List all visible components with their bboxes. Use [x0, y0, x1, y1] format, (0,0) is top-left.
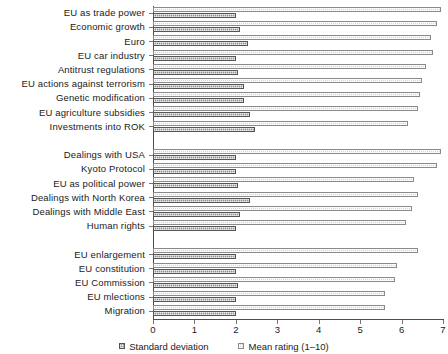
bar-row [153, 276, 443, 290]
bar-mean-rating [153, 121, 408, 126]
bar-standard-deviation [153, 283, 238, 288]
x-axis-tick-labels: 01234567 [153, 324, 444, 336]
x-axis-tick-label: 7 [440, 324, 445, 335]
bar-standard-deviation [153, 56, 236, 61]
category-label: Human rights [87, 221, 145, 231]
bar-mean-rating [153, 220, 406, 225]
x-axis-tick-label: 4 [316, 324, 321, 335]
bar-row [153, 91, 443, 105]
category-label: EU as trade power [64, 8, 145, 18]
category-label: Antitrust regulations [58, 65, 145, 75]
bar-row [153, 120, 443, 134]
bar-row [153, 49, 443, 63]
bar-standard-deviation [153, 198, 250, 203]
bar-row [153, 162, 443, 176]
category-label: Dealings with North Korea [31, 193, 145, 203]
bar-mean-rating [153, 291, 385, 296]
bar-standard-deviation [153, 41, 248, 46]
x-axis-tick-label: 1 [192, 324, 197, 335]
legend-label-standard-deviation: Standard deviation [129, 341, 208, 352]
category-label: EU car industry [78, 51, 145, 61]
bar-mean-rating [153, 64, 426, 69]
bar-mean-rating [153, 92, 420, 97]
bar-mean-rating [153, 78, 422, 83]
bar-standard-deviation [153, 13, 236, 18]
bar-mean-rating [153, 206, 412, 211]
legend-swatch-standard-deviation [119, 343, 125, 349]
bar-mean-rating [153, 248, 418, 253]
x-axis-tick-label: 0 [150, 324, 155, 335]
bar-row [153, 77, 443, 91]
bar-mean-rating [153, 106, 418, 111]
plot-area [153, 6, 443, 319]
x-axis-tick-label: 2 [233, 324, 238, 335]
bar-mean-rating [153, 50, 433, 55]
bar-row [153, 148, 443, 162]
category-label: EU constitution [79, 264, 145, 274]
bar-standard-deviation [153, 84, 244, 89]
category-label: EU Commission [75, 278, 145, 288]
bar-mean-rating [153, 305, 385, 310]
bar-mean-rating [153, 177, 414, 182]
bar-standard-deviation [153, 297, 236, 302]
bar-row [153, 205, 443, 219]
legend-item-standard-deviation: Standard deviation [119, 341, 208, 352]
x-axis-tick-label: 5 [357, 324, 362, 335]
bar-row [153, 63, 443, 77]
legend-swatch-mean-rating [238, 343, 244, 349]
bar-row [153, 176, 443, 190]
category-label: Dealings with USA [64, 150, 145, 160]
bar-standard-deviation [153, 311, 236, 316]
group-separator [153, 134, 443, 148]
bar-row [153, 219, 443, 233]
x-axis-tick-label: 6 [399, 324, 404, 335]
bar-standard-deviation [153, 183, 238, 188]
category-label: Genetic modification [56, 93, 145, 103]
bar-rows [153, 6, 443, 319]
category-label: EU mlections [87, 292, 145, 302]
bar-mean-rating [153, 149, 441, 154]
bar-standard-deviation [153, 226, 236, 231]
category-label: Investments into ROK [50, 122, 145, 132]
bar-mean-rating [153, 21, 437, 26]
bar-standard-deviation [153, 169, 236, 174]
category-label: EU actions against terrorism [21, 79, 145, 89]
bar-mean-rating [153, 277, 395, 282]
category-label: EU enlargement [74, 250, 145, 260]
legend-item-mean-rating: Mean rating (1–10) [238, 341, 328, 352]
bar-standard-deviation [153, 112, 250, 117]
bar-chart: EU as trade powerEconomic growthEuroEU c… [0, 0, 448, 354]
category-axis-labels: EU as trade powerEconomic growthEuroEU c… [0, 6, 149, 319]
bar-row [153, 262, 443, 276]
bar-mean-rating [153, 163, 437, 168]
category-label: Euro [124, 37, 145, 47]
bar-mean-rating [153, 7, 441, 12]
group-separator [153, 233, 443, 247]
legend-label-mean-rating: Mean rating (1–10) [248, 341, 328, 352]
category-label: EU as political power [53, 179, 145, 189]
bar-row [153, 20, 443, 34]
category-label: Dealings with Middle East [32, 207, 145, 217]
category-label: Migration [105, 306, 145, 316]
bar-row [153, 304, 443, 318]
bar-row [153, 105, 443, 119]
bar-row [153, 34, 443, 48]
chart-legend: Standard deviation Mean rating (1–10) [0, 339, 448, 353]
bar-standard-deviation [153, 254, 236, 259]
bar-row [153, 247, 443, 261]
bar-mean-rating [153, 192, 418, 197]
bar-row [153, 191, 443, 205]
bar-standard-deviation [153, 269, 236, 274]
x-axis-tick-label: 3 [275, 324, 280, 335]
category-label: Kyoto Protocol [81, 164, 145, 174]
bar-standard-deviation [153, 127, 255, 132]
category-label: Economic growth [70, 22, 145, 32]
bar-standard-deviation [153, 27, 240, 32]
bar-row [153, 6, 443, 20]
bar-standard-deviation [153, 70, 238, 75]
bar-standard-deviation [153, 98, 244, 103]
bar-mean-rating [153, 263, 397, 268]
bar-mean-rating [153, 35, 431, 40]
category-label: EU agriculture subsidies [39, 108, 145, 118]
bar-row [153, 290, 443, 304]
